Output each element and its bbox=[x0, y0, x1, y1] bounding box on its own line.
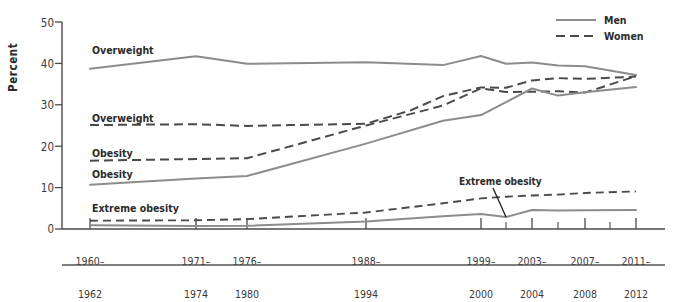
x-tick-line2: 1994 bbox=[338, 289, 394, 300]
series-line-overweight-men bbox=[90, 56, 636, 75]
series-line-obesity-men bbox=[90, 87, 636, 185]
annotation-leader-line bbox=[493, 188, 506, 217]
series-line-extreme-obesity-women bbox=[90, 191, 636, 220]
x-tick-line2: 2008 bbox=[557, 289, 613, 300]
series-line-overweight-women bbox=[90, 77, 636, 126]
x-tick-line2: 2000 bbox=[453, 289, 509, 300]
x-tick-line2: 2004 bbox=[504, 289, 560, 300]
x-tick-line2: 2012 bbox=[608, 289, 664, 300]
x-tick-marks-minor bbox=[506, 222, 610, 229]
y-tick-marks bbox=[55, 22, 62, 229]
series-line-obesity-women bbox=[90, 76, 636, 161]
x-tick-line2: 1974 bbox=[168, 289, 224, 300]
x-tick-line2: 1962 bbox=[62, 289, 118, 300]
x-tick-line2: 1980 bbox=[219, 289, 275, 300]
